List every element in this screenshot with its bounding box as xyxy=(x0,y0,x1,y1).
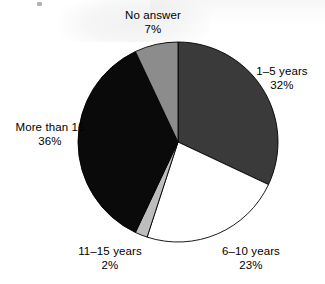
pie-label-no-answer-value: 7% xyxy=(107,22,199,36)
pie-label-6-10-years: 6–10 years 23% xyxy=(211,244,291,272)
pie-label-6-10-years-value: 23% xyxy=(211,258,291,272)
pie-label-11-15-years: 11–15 years 2% xyxy=(66,244,154,272)
pie-label-no-answer-text: No answer xyxy=(107,8,199,22)
pie-label-1-5-years: 1–5 years 32% xyxy=(246,64,318,92)
pie-label-more-than-16-value: 36% xyxy=(4,134,96,148)
pie-label-6-10-years-text: 6–10 years xyxy=(211,244,291,258)
pie-label-11-15-years-value: 2% xyxy=(66,258,154,272)
pie-label-1-5-years-text: 1–5 years xyxy=(246,64,318,78)
pie-label-more-than-16: More than 16 36% xyxy=(4,120,96,148)
pie-label-1-5-years-value: 32% xyxy=(246,78,318,92)
pie-label-no-answer: No answer 7% xyxy=(107,8,199,36)
pie-label-more-than-16-text: More than 16 xyxy=(4,120,96,134)
pie-label-11-15-years-text: 11–15 years xyxy=(66,244,154,258)
